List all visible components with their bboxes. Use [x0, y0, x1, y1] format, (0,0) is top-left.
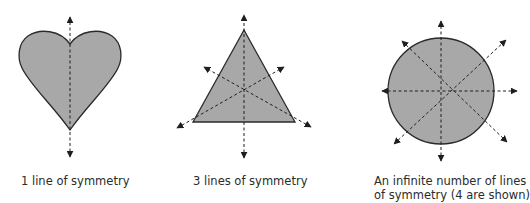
heart-panel: [19, 17, 121, 157]
triangle-panel: [177, 15, 311, 158]
circle-caption-line1: An infinite number of lines: [374, 174, 526, 189]
circle-panel: [382, 21, 517, 161]
circle-caption-line2: of symmetry (4 are shown): [374, 188, 530, 203]
triangle-caption: 3 lines of symmetry: [193, 174, 307, 189]
heart-caption: 1 line of symmetry: [21, 174, 129, 189]
